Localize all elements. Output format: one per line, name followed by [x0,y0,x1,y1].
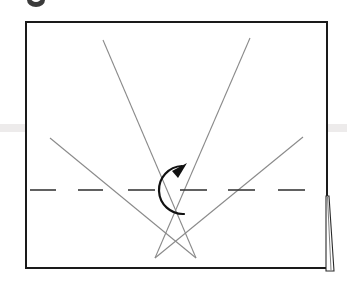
page-edge-wedge-sliver [326,196,334,271]
figure-root [0,0,347,285]
cropped-ellipse-mark [27,0,45,7]
outer-rectangle [26,22,327,268]
technical-drawing-canvas [0,0,347,285]
